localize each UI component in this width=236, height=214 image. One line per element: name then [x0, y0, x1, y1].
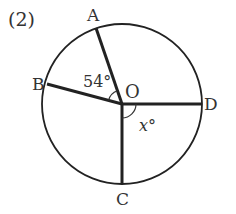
angle-label-x: x°	[139, 116, 156, 135]
point-label-A: A	[86, 5, 100, 25]
point-label-D: D	[204, 94, 218, 114]
point-label-C: C	[116, 189, 129, 209]
angle-label-54: 54°	[83, 72, 111, 91]
problem-number: (2)	[8, 8, 35, 30]
angle-arc-COD	[122, 104, 136, 118]
point-label-O: O	[125, 81, 140, 102]
radius-OA	[96, 28, 122, 104]
circle-diagram: (2) 54° x° O A B C D	[0, 0, 236, 214]
angle-arc-AOB	[109, 91, 118, 101]
point-label-B: B	[32, 74, 45, 94]
